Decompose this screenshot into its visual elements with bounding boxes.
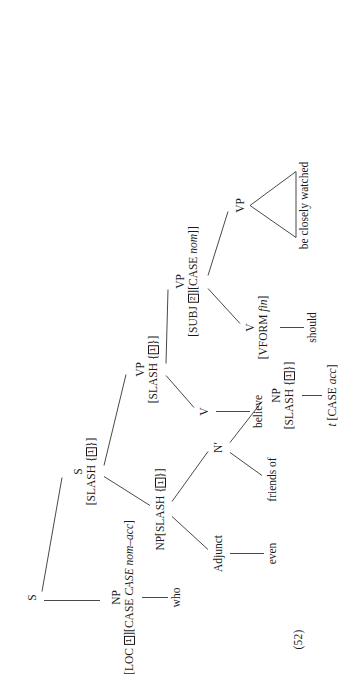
- node-s-root: S: [26, 594, 39, 600]
- branch-np-slash-to-nbar: [172, 451, 208, 501]
- boxed-index-icon: 1: [124, 635, 135, 644]
- subj-keyword: SUBJ: [187, 306, 199, 333]
- leaf-even: even: [266, 542, 278, 564]
- branch-np-slash-to-adjunct: [172, 516, 208, 549]
- leaf-believe: believe: [252, 394, 264, 427]
- branch-vp-subj-to-v-should: [208, 288, 240, 323]
- node-v-believe: V: [198, 407, 211, 415]
- trace-symbol: t: [326, 423, 338, 426]
- node-features-slash-vp: [SLASH {1}]: [147, 335, 160, 403]
- branch-vp-subj-to-vp-watched: [208, 211, 228, 275]
- leaf-should: should: [306, 312, 318, 343]
- leaf-who: who: [170, 587, 182, 607]
- node-np-who: NP [LOC 1][CASE CASE nom–acc]: [110, 520, 136, 674]
- boxed-index-icon: 1: [284, 371, 295, 380]
- node-vp-watched: VP: [234, 198, 247, 213]
- node-vp-slash: VP [SLASH {1}]: [134, 335, 160, 403]
- branch-s-root-to-s-slash: [42, 477, 62, 591]
- slash-keyword: SLASH: [154, 495, 166, 531]
- branch-s-slash-to-np-slash: [104, 476, 150, 505]
- node-adjunct: Adjunct: [212, 534, 225, 571]
- node-features-loc-case: [LOC 1][CASE CASE nom–acc]: [123, 520, 136, 674]
- boxed-index-icon: 2: [188, 293, 199, 302]
- triangle-be-closely-watched: [250, 171, 296, 237]
- node-label-v-believe: V: [198, 407, 211, 415]
- node-nbar: N′: [212, 442, 225, 453]
- node-np-slash: NP[SLASH {1}]: [154, 468, 167, 550]
- boxed-index-icon: 1: [148, 345, 159, 354]
- node-features-slash-np-trace: [SLASH {1}]: [283, 361, 296, 429]
- leaf-friends-of: friends of: [266, 457, 278, 501]
- node-features-slash-s: [SLASH {1}]: [85, 437, 98, 505]
- node-label-vp-subj: VP: [174, 226, 187, 336]
- node-label-vp-watched: VP: [234, 198, 247, 213]
- branch-vp-slash-to-vp-subj: [166, 289, 168, 363]
- example-number: (52): [292, 629, 304, 649]
- node-label-nbar: N′: [212, 442, 225, 453]
- node-features-vform: [VFORM fin]: [257, 295, 270, 359]
- case-value-nom: nom: [187, 233, 199, 253]
- boxed-index-icon: 1: [86, 447, 97, 456]
- node-label-np-slash: NP[SLASH {1}]: [154, 468, 167, 550]
- leaf-be-closely-watched: be closely watched: [298, 161, 310, 249]
- slash-keyword: SLASH: [283, 388, 295, 424]
- node-vp-subj: VP [SUBJ 2][CASE nom]]: [174, 226, 200, 336]
- branch-vp-slash-to-v-believe: [166, 375, 194, 407]
- node-label-adjunct: Adjunct: [212, 534, 225, 571]
- slash-keyword: SLASH: [85, 464, 97, 500]
- node-label-np: NP: [110, 520, 123, 674]
- leaf-trace: t [CASE acc]: [326, 364, 338, 426]
- node-label-np-trace: NP: [270, 361, 283, 429]
- slash-keyword: SLASH: [147, 362, 159, 398]
- node-label-s-root: S: [26, 594, 39, 600]
- node-s-slash: S [SLASH {1}]: [72, 437, 98, 505]
- case-value-acc: acc: [326, 368, 338, 384]
- node-label-v-should: V: [244, 295, 257, 359]
- boxed-index-icon: 1: [155, 477, 166, 486]
- node-label-vp-slash: VP: [134, 335, 147, 403]
- vform-value-fin: fin: [257, 299, 269, 311]
- case-value-nom-acc: CASE nom–acc: [123, 523, 135, 595]
- node-np-trace: NP [SLASH {1}]: [270, 361, 296, 429]
- node-features-subj-case: [SUBJ 2][CASE nom]]: [187, 226, 200, 336]
- branch-s-slash-to-vp-slash: [104, 374, 126, 465]
- branch-nbar-to-friends-of: [230, 452, 262, 475]
- node-label-s-slash: S: [72, 437, 85, 505]
- node-v-should: V [VFORM fin]: [244, 295, 270, 359]
